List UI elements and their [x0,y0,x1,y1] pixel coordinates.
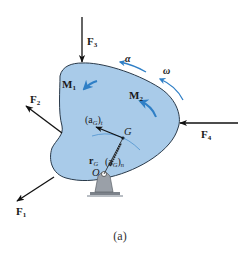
alpha-label: α [125,53,131,64]
F1-arrow [17,177,54,201]
F2-arrow [26,106,62,133]
O-label: O [92,167,100,178]
F4-label: F4 [201,128,212,142]
omega-label: ω [163,65,170,76]
F3-label: F3 [87,35,98,49]
F1-label: F1 [16,205,27,219]
G-label: G [124,126,132,137]
F2-label: F2 [30,93,41,107]
rigid-body-diagram: F3 F2 F1 F4 M1 M2 α ω (aG)t G rG (aG)n O [0,0,240,254]
figure-caption: (a) [0,229,240,244]
